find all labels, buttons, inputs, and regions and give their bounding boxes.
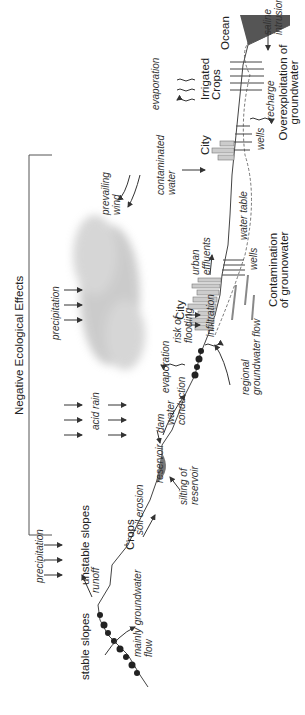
label-regional-groundwater-flow: regional groundwater flow — [240, 305, 262, 395]
label-overexploitation: Overexploitation of groundwater — [278, 35, 300, 150]
label-irrigated-crops: Irrigated Crops — [200, 50, 222, 100]
label-evaporation-2: evaporation — [150, 58, 161, 110]
label-water-table: water table — [238, 191, 249, 240]
diagram-title: Negative Ecological Effects — [14, 276, 25, 415]
smog-cloud — [73, 215, 145, 370]
label-precipitation-2: precipitation — [50, 286, 61, 340]
regional-flow-arrow — [215, 345, 230, 385]
label-wells-1: wells — [248, 248, 259, 270]
label-infiltration: infiltration — [205, 294, 216, 337]
label-city-1: City — [175, 300, 186, 320]
label-contamination: Contamination of grounowater — [268, 230, 290, 310]
label-silting-of-reservoir: silting of reservoir — [178, 450, 200, 505]
label-city-2: City — [200, 135, 211, 155]
label-saline-intrusion: saline intrusion — [262, 0, 284, 35]
label-runoff: runoff — [90, 567, 101, 593]
wells-1 — [222, 260, 245, 275]
label-reservoir: reservoir — [154, 444, 165, 483]
infiltration-wavy — [205, 344, 223, 346]
label-acid-rain: acid rain — [90, 392, 101, 430]
label-prevailing-wind: prevailing wind — [100, 165, 122, 215]
label-precipitation-1: precipitation — [34, 529, 45, 583]
precipitation-arrows-1 — [44, 545, 62, 575]
irrigated-wells — [230, 62, 264, 90]
effects-bracket — [29, 155, 52, 535]
diagram-canvas: Negative Ecological Effects stable slope… — [0, 0, 305, 715]
city-buildings-2 — [212, 141, 234, 160]
label-evaporation-1: evaporation — [160, 341, 171, 393]
label-recharge: recharge — [265, 81, 276, 120]
label-urban-effluents: urban effluents — [190, 225, 212, 275]
label-contaminated-water: contaminated water — [155, 135, 177, 195]
precipitation-arrows-2 — [64, 290, 82, 320]
label-wells-2: wells — [255, 128, 266, 150]
label-mainly-groundwater-flow: mainly groundwater flow — [132, 567, 154, 657]
label-stable-slopes: stable slopes — [80, 613, 91, 680]
evaporation-wavy-2 — [177, 79, 195, 101]
label-soil-erosion: soil erosion — [134, 484, 145, 535]
label-ocean: Ocean — [220, 16, 231, 50]
